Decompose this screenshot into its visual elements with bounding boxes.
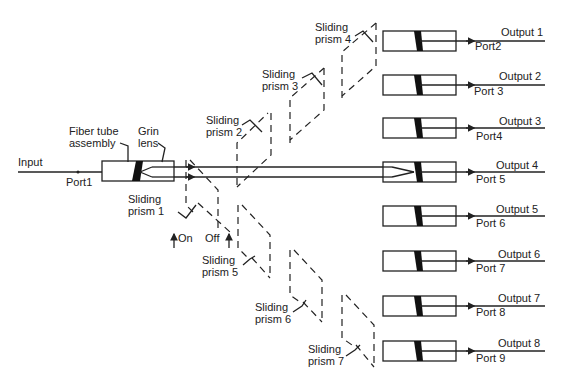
- port-7-label: Port 7: [476, 262, 505, 274]
- output-7-label: Output 7: [498, 292, 540, 304]
- sliding-prism-6: [290, 250, 322, 322]
- grin-lens-label-2: lens: [138, 137, 159, 149]
- prism-4-label-2: prism 4: [315, 33, 351, 45]
- sliding-prism-1: [178, 160, 230, 232]
- input-collimator: [102, 161, 174, 181]
- fiber-tube-label-2: assembly: [69, 137, 116, 149]
- port-6-label: Port 6: [476, 217, 505, 229]
- prism-7-label-1: Sliding: [308, 343, 341, 355]
- prism-1-label-1: Sliding: [128, 193, 161, 205]
- output-8-label: Output 8: [498, 337, 540, 349]
- prism-5-label-1: Sliding: [202, 254, 235, 266]
- prism-6-label-2: prism 6: [255, 313, 291, 325]
- port-4-label: Port4: [476, 130, 502, 142]
- sliding-prism-2: [237, 113, 271, 187]
- prism-6-label-1: Sliding: [255, 301, 288, 313]
- output-2-label: Output 2: [499, 70, 541, 82]
- prism-7-label-2: prism 7: [308, 355, 344, 367]
- port-5-label: Port 5: [476, 173, 505, 185]
- prism-3-label-2: prism 3: [262, 80, 298, 92]
- on-label: On: [178, 232, 193, 244]
- port-8-label: Port 8: [476, 306, 505, 318]
- port-2-label: Port2: [475, 40, 501, 52]
- port1-label: Port1: [66, 176, 92, 188]
- prism-5-label-2: prism 5: [202, 266, 238, 278]
- output-1-label: Output 1: [501, 26, 543, 38]
- off-label: Off: [205, 232, 220, 244]
- output-4-label: Output 4: [496, 159, 538, 171]
- port-9-label: Port 9: [476, 352, 505, 364]
- output-3-label: Output 3: [499, 115, 541, 127]
- output-5-label: Output 5: [496, 203, 538, 215]
- fiber-tube-label-1: Fiber tube: [69, 125, 119, 137]
- port-3-label: Port 3: [474, 85, 503, 97]
- grin-lens-label-1: Grin: [138, 125, 159, 137]
- sliding-prism-5: [238, 205, 270, 278]
- optical-switch-diagram: Input Port1 Fiber tube assembly Grin len…: [0, 0, 563, 387]
- prism-2-label-2: prism 2: [206, 126, 242, 138]
- output-6-label: Output 6: [498, 248, 540, 260]
- prism-3-label-1: Sliding: [262, 68, 295, 80]
- prism-1-label-2: prism 1: [128, 205, 164, 217]
- grin-lens-leader: [158, 143, 165, 162]
- port1-dot: [77, 171, 80, 174]
- prism-4-label-1: Sliding: [315, 21, 348, 33]
- fiber-tube-leader: [120, 143, 128, 162]
- input-label: Input: [18, 156, 42, 168]
- prism-2-label-1: Sliding: [206, 114, 239, 126]
- sliding-prism-7: [342, 295, 374, 367]
